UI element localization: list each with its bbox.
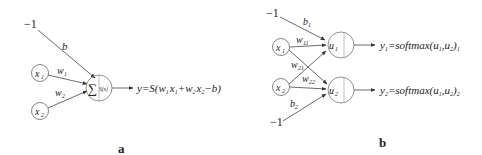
weight-w11-sub: 11 [303, 40, 309, 46]
input-x1-sub: 1 [282, 48, 285, 54]
edge-x2-sum [48, 91, 87, 108]
output-y2-formula: y2=softmax(u1,u2)2 [379, 84, 460, 97]
caption-b: b [379, 135, 386, 150]
edge-x2-u2 [290, 87, 326, 89]
bias-weight-b2-sub: 2 [295, 104, 298, 110]
weight-w1-sub: 1 [64, 71, 67, 77]
input-x1-var: x [275, 42, 281, 53]
input-x2-var: x [34, 106, 40, 117]
weight-w22-sub: 22 [309, 79, 315, 85]
caption-a: a [118, 141, 125, 155]
edge-x1-sum [48, 75, 87, 84]
bias-weight-b1-sub: 1 [308, 22, 311, 28]
neuron-u2-sub: 2 [335, 91, 338, 97]
diagram-b: −1 b 1 x 1 x 2 w 11 w 21 w 22 −1 b 2 u 1… [266, 6, 460, 150]
output-formula-text: y=S(w1x1+w2x2−b) [136, 82, 221, 95]
activation-label: S(x) [99, 86, 108, 93]
sum-symbol: ∑ [88, 81, 97, 96]
weight-w2-var: w [55, 87, 62, 98]
weight-w22-var: w [302, 73, 309, 84]
neuron-u1-var: u [329, 40, 334, 51]
neural-network-figure: −1 b x 1 x 2 w 1 w 2 ∑ S(x) y=S(w1x1+w2x… [0, 0, 482, 155]
neuron-u2-var: u [329, 85, 334, 96]
output-formula: y=S(w1x1+w2x2−b) [136, 82, 221, 95]
diagram-a: −1 b x 1 x 2 w 1 w 2 ∑ S(x) y=S(w1x1+w2x… [24, 17, 221, 155]
input-x1-sub: 1 [41, 74, 44, 80]
bias-input-1-label: −1 [266, 6, 279, 20]
output-y1-formula: y1=softmax(u1,u2)1 [379, 39, 460, 52]
weight-w1-var: w [57, 65, 64, 76]
bias-weight-label: b [62, 40, 68, 52]
input-x2-var: x [275, 82, 281, 93]
weight-w2-sub: 2 [62, 93, 65, 99]
input-x2-sub: 2 [282, 88, 285, 94]
input-x2-sub: 2 [41, 112, 44, 118]
bias-input-label: −1 [24, 17, 37, 31]
input-x1-var: x [34, 68, 40, 79]
bias-input-2-label: −1 [270, 115, 283, 129]
weight-w21-sub: 21 [298, 65, 304, 71]
weight-w21-var: w [291, 59, 298, 70]
weight-w11-var: w [296, 34, 303, 45]
neuron-u1-sub: 1 [335, 46, 338, 52]
